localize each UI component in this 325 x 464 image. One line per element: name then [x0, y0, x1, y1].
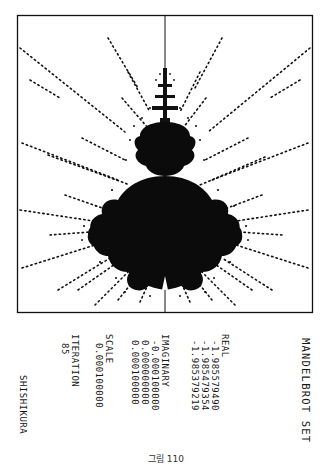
mandelbrot-plot — [0, 0, 325, 330]
figure-caption: 그림 110 — [148, 452, 184, 464]
real-label: REAL — [220, 334, 230, 358]
imaginary-value-3: 0.000100000 — [130, 340, 140, 405]
imaginary-value-2: 0.000000000 — [140, 340, 150, 405]
iteration-label: ITERATION — [70, 334, 80, 387]
mandelbrot-body — [88, 122, 243, 290]
scale-label: SCALE — [104, 334, 114, 364]
figure-title: MANDELBROT SET — [301, 338, 311, 443]
real-value-1: -1.985579490 — [210, 340, 220, 411]
real-value-2: -1.985479354 — [200, 340, 210, 411]
imaginary-value-1: -0.000100000 — [150, 340, 160, 411]
imaginary-label: IMAGINARY — [160, 334, 170, 387]
antenna-spike — [152, 68, 178, 126]
author-name: SHISHIKURA — [18, 375, 28, 434]
scale-value: 0.000100000 — [94, 343, 104, 408]
iteration-value: 85 — [60, 343, 70, 355]
real-value-3: -1.985379219 — [190, 340, 200, 411]
